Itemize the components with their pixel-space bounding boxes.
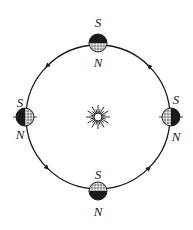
label-top-n: N: [93, 55, 104, 70]
label-left-n: N: [15, 127, 26, 142]
globe-position-right: [159, 108, 183, 126]
earth-orbit-diagram: S N S N S N S N: [0, 0, 193, 230]
label-right-s: S: [173, 92, 180, 107]
globe-position-bottom: [89, 182, 107, 200]
globe-night-side: [89, 191, 107, 200]
sun-ray: [96, 121, 97, 125]
sun-ray: [99, 109, 100, 113]
globe-position-left: [13, 108, 37, 126]
sun-ray: [102, 118, 106, 119]
label-bottom-s: S: [95, 167, 102, 182]
sun-ray: [102, 115, 106, 116]
sun-core: [94, 113, 102, 121]
label-top-s: S: [95, 15, 102, 30]
globe-position-top: [89, 34, 107, 52]
sun-icon: [86, 105, 110, 129]
label-bottom-n: N: [93, 204, 104, 219]
globe-night-side: [89, 34, 107, 43]
sun-ray: [90, 115, 94, 116]
label-right-n: N: [171, 129, 182, 144]
sun-ray: [90, 118, 94, 119]
sun-ray: [96, 109, 97, 113]
globe-night-side: [171, 108, 180, 126]
sun-ray: [99, 121, 100, 125]
globe-night-side: [16, 108, 25, 126]
label-left-s: S: [17, 95, 24, 110]
